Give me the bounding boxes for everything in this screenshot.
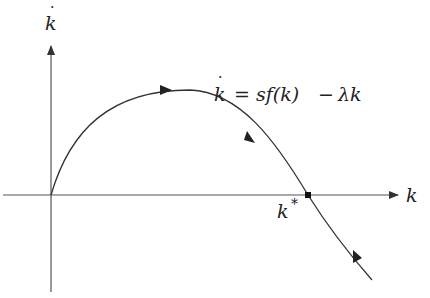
x-axis-label: k (406, 184, 418, 206)
equation-minus: − (318, 83, 334, 105)
flow-arrow-icon (244, 131, 255, 143)
steady-state-label: k (277, 200, 289, 222)
equation-equals: = (234, 83, 250, 105)
steady-state-sup: * (291, 196, 298, 212)
flow-arrow-icon (160, 85, 172, 95)
kdot-curve (51, 90, 372, 280)
y-axis-label: k (45, 12, 57, 34)
phase-diagram: · k k · k = sf(k) − λk k * (0, 0, 430, 298)
equation-lhs: k (214, 83, 226, 105)
flow-arrow-icon (353, 250, 362, 263)
equation-rhs-term1: sf(k) (256, 83, 299, 105)
steady-state-point (305, 192, 311, 198)
equation-rhs-term2: λk (337, 83, 362, 105)
